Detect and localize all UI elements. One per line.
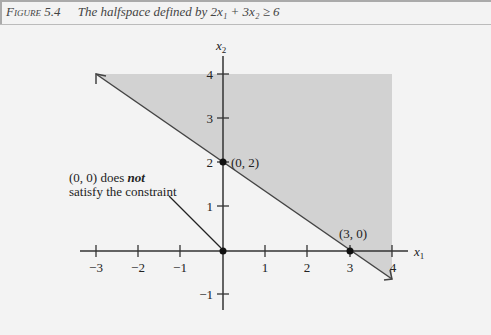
y-tick-label: −1 bbox=[199, 287, 213, 302]
annotation-line2: satisfy the constraint bbox=[69, 184, 177, 199]
x-tick-label: −3 bbox=[89, 260, 103, 275]
x-tick-label: −1 bbox=[173, 260, 187, 275]
y-axis-title: x2 bbox=[215, 38, 226, 55]
point-label-0-2: (0, 2) bbox=[231, 155, 259, 170]
x-tick-label: 1 bbox=[262, 260, 269, 275]
annotation-pointer bbox=[169, 196, 221, 248]
y-tick-label: 3 bbox=[207, 111, 214, 126]
point-label-3-0: (3, 0) bbox=[339, 226, 367, 241]
point-3-0 bbox=[347, 248, 354, 255]
annotation-line1: (0, 0) does not bbox=[69, 170, 145, 185]
x-tick-label: 4 bbox=[390, 260, 397, 275]
y-tick-label: 2 bbox=[207, 155, 214, 170]
x-tick-label: 3 bbox=[347, 260, 354, 275]
point-0-2 bbox=[220, 159, 227, 166]
x-tick-label: −2 bbox=[131, 260, 145, 275]
halfspace-chart: −3 −2 −1 1 2 3 4 −1 1 2 3 4 x1 x2 (0, 2)… bbox=[0, 0, 491, 335]
figure-frame: Figure 5.4 The halfspace defined by 2x₁ … bbox=[0, 0, 491, 335]
x-tick-label: 2 bbox=[304, 260, 311, 275]
y-tick-label: 4 bbox=[207, 67, 214, 82]
x-axis-title: x1 bbox=[413, 244, 424, 261]
point-origin bbox=[220, 248, 227, 255]
y-tick-label: 1 bbox=[207, 199, 214, 214]
